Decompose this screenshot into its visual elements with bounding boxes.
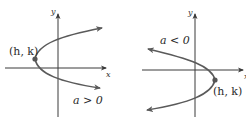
left-x-axis-label: x [106, 70, 111, 79]
left-vertex-label: (h, k) [9, 45, 38, 58]
right-x-axis-label: x [244, 72, 246, 81]
left-condition-label: a > 0 [73, 94, 103, 107]
left-panel: x y (h, k) a > 0 [5, 7, 111, 117]
parabola-diagrams: x y (h, k) a > 0 y x a < 0 (h, k) [0, 0, 246, 122]
right-panel: y x a < 0 (h, k) [142, 8, 246, 117]
left-parabola-lower [35, 59, 100, 88]
right-y-axis-label: y [187, 8, 193, 17]
right-condition-label: a < 0 [160, 34, 190, 47]
left-y-axis-label: y [50, 7, 56, 16]
left-parabola-upper [35, 28, 102, 59]
right-parabola-lower [147, 80, 215, 110]
right-vertex-dot [212, 77, 217, 82]
right-parabola-upper [148, 49, 215, 80]
right-vertex-label: (h, k) [213, 85, 242, 98]
